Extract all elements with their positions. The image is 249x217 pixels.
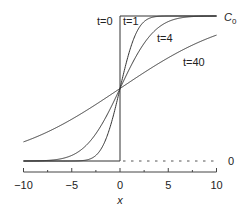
x-axis [24,168,217,172]
diffusion-profile-chart: −10−50510 x t=0 t=1 t=4 t=40 C0 0 [0,0,249,217]
label-t1: t=1 [123,15,139,27]
label-t40: t=40 [183,56,205,68]
x-tick-label: 10 [210,179,222,191]
x-tick-label: −5 [65,179,78,191]
label-c0-subscript: 0 [232,17,237,26]
curves [24,16,217,161]
x-tick-label: −10 [14,179,33,191]
label-c0: C0 [224,11,237,26]
x-axis-label: x [116,194,123,206]
x-tick-label: 0 [117,179,123,191]
x-tick-labels: −10−50510 [14,179,222,191]
x-tick-label: 5 [165,179,171,191]
label-t0: t=0 [97,15,113,27]
label-zero: 0 [228,155,234,167]
label-c0-main: C [224,11,232,23]
label-t4: t=4 [157,32,173,44]
